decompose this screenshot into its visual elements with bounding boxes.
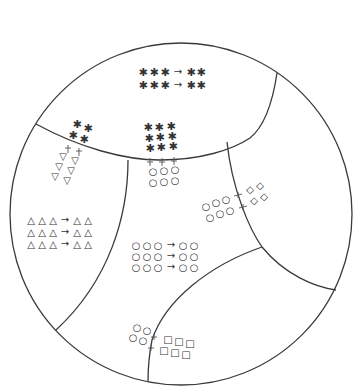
- circle-cluster-top-center: ○○○ ○○○: [149, 164, 180, 188]
- svg-text:→: →: [167, 239, 175, 250]
- boundary-right-region: [227, 142, 336, 290]
- svg-text:✱: ✱: [149, 66, 158, 79]
- svg-text:○: ○: [132, 251, 141, 262]
- svg-text:□: □: [185, 338, 194, 349]
- svg-text:→: →: [167, 250, 175, 261]
- svg-text:△: △: [84, 239, 92, 250]
- svg-text:○: ○: [226, 205, 235, 216]
- svg-text:→: →: [61, 226, 69, 237]
- svg-text:○: ○: [202, 201, 211, 212]
- svg-text:○: ○: [206, 212, 215, 223]
- svg-text:○: ○: [143, 240, 152, 251]
- inverted-triangle-cluster: ▽ ▽ ▽ ▽ ▽ ▽: [51, 151, 79, 186]
- svg-text:○: ○: [179, 251, 188, 262]
- svg-text:△: △: [73, 239, 81, 250]
- svg-text:○: ○: [149, 177, 158, 188]
- svg-text:▽: ▽: [51, 171, 59, 182]
- phase-diagram: ✱✱✱ → ✱✱ ✱✱✱ → ✱✱ ✱ ✱ ✱ ✱ ▽ ▽ ▽ ▽ ▽ ▽ ✱✱…: [0, 0, 361, 388]
- svg-text:□: □: [181, 349, 190, 360]
- svg-text:□: □: [174, 336, 183, 347]
- svg-text:✱: ✱: [156, 141, 165, 154]
- svg-text:△: △: [73, 227, 81, 238]
- left-region-reactions: △△△ → △△ △△△ → △△ △△△ → △△: [27, 214, 92, 250]
- svg-text:✱: ✱: [160, 79, 169, 92]
- svg-text:△: △: [27, 239, 35, 250]
- asterisk-cluster-left: ✱ ✱ ✱ ✱: [68, 118, 92, 146]
- svg-text:△: △: [73, 215, 81, 226]
- circle-cluster-bottom: ○○ ○○: [129, 322, 152, 346]
- svg-text:△: △: [38, 215, 46, 226]
- svg-text:✱: ✱: [196, 66, 205, 79]
- svg-text:△: △: [49, 227, 57, 238]
- diamond-cluster: ◇◇ ◇◇: [246, 180, 268, 206]
- svg-text:→: →: [174, 79, 182, 90]
- svg-text:◇: ◇: [250, 195, 258, 206]
- svg-text:○: ○: [143, 262, 152, 273]
- svg-text:○: ○: [143, 251, 152, 262]
- svg-text:△: △: [49, 239, 57, 250]
- svg-text:○: ○: [139, 335, 148, 346]
- svg-text:△: △: [38, 227, 46, 238]
- svg-text:○: ○: [190, 240, 199, 251]
- svg-text:○: ○: [132, 240, 141, 251]
- svg-text:○: ○: [160, 165, 169, 176]
- svg-text:○: ○: [190, 262, 199, 273]
- svg-text:→: →: [174, 66, 182, 77]
- circle-cluster-right: ○○○ ○○○: [202, 194, 235, 223]
- svg-text:△: △: [27, 215, 35, 226]
- center-region-reactions: ○○○ → ○○ ○○○ → ○○ ○○○ → ○○: [132, 239, 199, 273]
- svg-text:○: ○: [171, 175, 180, 186]
- top-region-reactions: ✱✱✱ → ✱✱ ✱✱✱ → ✱✱: [138, 66, 205, 92]
- svg-text:△: △: [38, 239, 46, 250]
- square-cluster: □□□ □□□: [159, 334, 194, 360]
- asterisk-cluster-center: ✱✱✱ ✱✱✱ ✱✱✱: [143, 120, 177, 155]
- svg-text:□: □: [159, 345, 168, 356]
- svg-text:○: ○: [132, 262, 141, 273]
- svg-text:✱: ✱: [79, 133, 88, 146]
- svg-text:○: ○: [160, 176, 169, 187]
- svg-text:◇: ◇: [256, 180, 264, 191]
- svg-text:✱: ✱: [138, 66, 147, 79]
- svg-text:✱: ✱: [186, 79, 195, 92]
- svg-text:○: ○: [190, 251, 199, 262]
- svg-text:✱: ✱: [160, 66, 169, 79]
- svg-text:✱: ✱: [186, 66, 195, 79]
- svg-text:✱: ✱: [145, 142, 154, 155]
- svg-text:▽: ▽: [63, 175, 71, 186]
- svg-text:○: ○: [179, 240, 188, 251]
- svg-text:✱: ✱: [68, 129, 77, 142]
- svg-text:□: □: [170, 347, 179, 358]
- svg-text:○: ○: [154, 262, 163, 273]
- svg-text:✱: ✱: [138, 79, 147, 92]
- svg-text:✱: ✱: [149, 79, 158, 92]
- svg-text:○: ○: [154, 251, 163, 262]
- svg-text:△: △: [27, 227, 35, 238]
- svg-text:○: ○: [149, 166, 158, 177]
- svg-text:○: ○: [154, 240, 163, 251]
- svg-text:○: ○: [222, 194, 231, 205]
- svg-text:◇: ◇: [260, 191, 268, 202]
- svg-text:□: □: [163, 334, 172, 345]
- svg-text:○: ○: [179, 262, 188, 273]
- svg-text:◇: ◇: [246, 184, 254, 195]
- svg-text:○: ○: [171, 164, 180, 175]
- svg-text:✱: ✱: [168, 140, 177, 153]
- svg-text:△: △: [84, 227, 92, 238]
- svg-text:✱: ✱: [196, 79, 205, 92]
- svg-text:→: →: [61, 238, 69, 249]
- svg-text:→: →: [61, 214, 69, 225]
- svg-text:△: △: [84, 215, 92, 226]
- svg-text:→: →: [167, 261, 175, 272]
- svg-text:△: △: [49, 215, 57, 226]
- svg-text:○: ○: [129, 332, 138, 343]
- boundary-bottom-right-region: [148, 247, 262, 382]
- interface-ticks-bottom: [148, 334, 157, 351]
- svg-text:○: ○: [216, 208, 225, 219]
- svg-text:○: ○: [212, 197, 221, 208]
